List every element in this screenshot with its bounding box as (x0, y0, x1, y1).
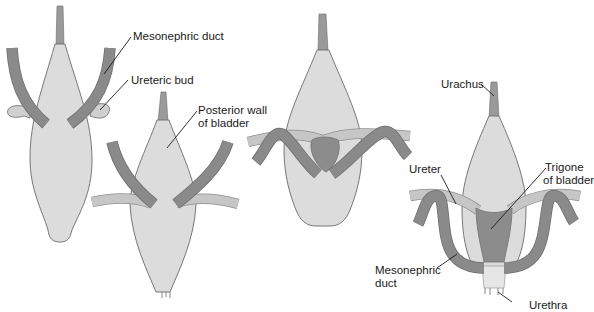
label-trigone-line1: Trigone (545, 161, 584, 174)
label-posterior-wall-line1: Posterior wall (198, 104, 267, 117)
label-ureteric-bud: Ureteric bud (131, 74, 194, 87)
stage-4-urachus (489, 82, 499, 118)
label-urethra: Urethra (529, 299, 567, 312)
label-mesonephric-duct-bottom-line1: Mesonephric (375, 264, 441, 277)
label-urachus: Urachus (441, 78, 484, 91)
stage-1-urachus (56, 6, 64, 46)
stage-3-panel (248, 14, 410, 226)
label-mesonephric-duct-bottom-line2: duct (375, 277, 397, 290)
label-ureter: Ureter (409, 163, 441, 176)
stage-3-urachus (318, 14, 328, 52)
stage-4-urethra (482, 266, 506, 288)
stage-2-urethra-fringe (162, 292, 170, 298)
label-trigone-line2: of bladder (543, 174, 594, 187)
label-mesonephric-duct-top: Mesonephric duct (133, 30, 224, 43)
stage-2-urachus (158, 92, 168, 122)
leader-urethra (498, 292, 512, 302)
label-posterior-wall-line2: of bladder (198, 117, 249, 130)
stage-1-bladder (30, 44, 92, 242)
stage-2-bladder (130, 120, 196, 292)
